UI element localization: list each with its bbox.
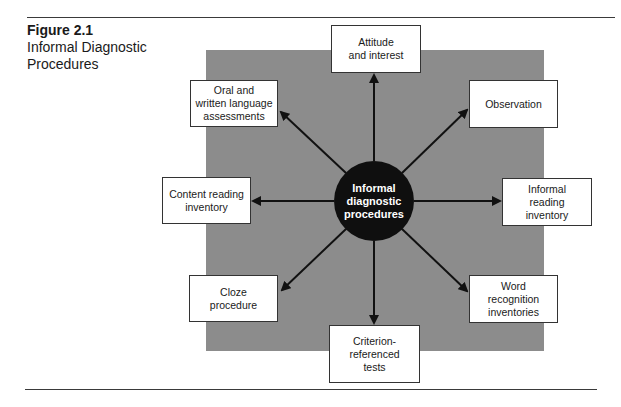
arrow-to-word-recognition — [402, 229, 467, 291]
node-label: Attitude — [349, 36, 404, 49]
hub-label-line2: diagnostic — [344, 195, 404, 208]
node-label: and interest — [349, 49, 404, 62]
hub-label-line3: procedures — [344, 208, 404, 221]
node-label: Oral and — [195, 84, 272, 97]
node-label: Criterion- — [349, 335, 399, 348]
node-label: inventory — [169, 201, 244, 214]
node-label: tests — [349, 361, 399, 374]
node-label: written language — [195, 97, 272, 110]
node-criterion: Criterion-referencedtests — [329, 325, 420, 383]
node-word-recognition: Word recognitioninventories — [469, 275, 558, 323]
node-cloze: Clozeprocedure — [189, 275, 278, 322]
node-label: reading inventory — [507, 196, 587, 222]
node-attitude: Attitudeand interest — [331, 25, 421, 73]
node-oral-written: Oral andwritten languageassessments — [190, 80, 278, 127]
node-label: Observation — [485, 98, 542, 111]
node-label: Content reading — [169, 188, 244, 201]
node-label: Cloze — [210, 286, 257, 299]
node-content-reading: Content readinginventory — [162, 177, 251, 224]
node-label: inventories — [474, 306, 553, 319]
node-label: assessments — [195, 110, 272, 123]
hub-circle: Informal diagnostic procedures — [334, 161, 414, 241]
node-label: Informal — [507, 183, 587, 196]
node-label: Word recognition — [474, 280, 553, 306]
arrow-to-oral-written — [281, 112, 346, 173]
node-observation: Observation — [469, 80, 558, 128]
node-label: procedure — [210, 299, 257, 312]
arrow-to-cloze — [282, 229, 346, 290]
hub-label-line1: Informal — [344, 182, 404, 195]
node-informal-reading-inventory: Informalreading inventory — [502, 178, 592, 226]
node-label: referenced — [349, 348, 399, 361]
arrow-to-observation — [402, 110, 467, 173]
